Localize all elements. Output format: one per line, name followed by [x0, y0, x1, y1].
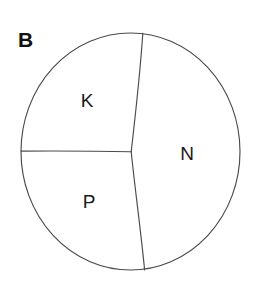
- divider-k-n: [131, 33, 143, 152]
- divider-p-n: [131, 152, 144, 270]
- panel-label: B: [18, 29, 33, 50]
- pie-slice-label-p: P: [83, 192, 96, 211]
- figure-panel: B K N P: [0, 0, 263, 282]
- pie-slice-label-k: K: [81, 91, 94, 110]
- divider-k-p: [21, 151, 131, 152]
- pie-chart: [0, 0, 263, 282]
- pie-slice-label-n: N: [180, 144, 194, 163]
